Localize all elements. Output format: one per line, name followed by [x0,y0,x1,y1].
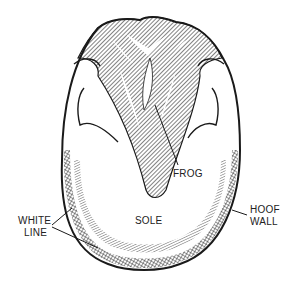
label-hoof-wall-2: WALL [250,216,278,227]
hoof-diagram [0,0,289,283]
label-hoof-wall-1: HOOF [250,204,280,215]
label-sole: SOLE [135,215,162,226]
label-white-line-1: WHITE [18,215,51,226]
label-frog: FROG [173,168,203,179]
hoof-wall-leader [232,210,247,215]
label-white-line-2: LINE [24,227,47,238]
